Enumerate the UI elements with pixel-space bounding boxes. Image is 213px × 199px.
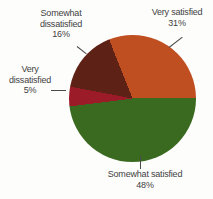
- slice-percent-text: 5%: [2, 85, 58, 96]
- leader-line-somewhat-satisfied: [140, 156, 141, 169]
- leader-line-very-dissatisfied: [51, 90, 66, 91]
- slice-label-very-dissatisfied: Very dissatisfied 5%: [2, 64, 58, 96]
- slice-percent-text: 31%: [138, 18, 213, 29]
- leader-line-somewhat-dissatisfied: [77, 46, 87, 54]
- slice-label-very-satisfied: Very satisfied 31%: [138, 7, 213, 28]
- slice-label-text: Very dissatisfied: [9, 64, 51, 85]
- slice-percent-text: 48%: [93, 180, 197, 191]
- slice-label-text: Very satisfied: [152, 7, 203, 17]
- slice-percent-text: 16%: [22, 29, 100, 40]
- slice-label-text: Somewhat dissatisfied: [40, 8, 82, 29]
- slice-label-somewhat-dissatisfied: Somewhat dissatisfied 16%: [22, 8, 100, 40]
- slice-label-text: Somewhat satisfied: [108, 169, 182, 179]
- slice-label-somewhat-satisfied: Somewhat satisfied 48%: [93, 169, 197, 190]
- leader-line-very-satisfied: [169, 37, 183, 48]
- pie-chart-figure: Somewhat dissatisfied 16% Very satisfied…: [0, 0, 213, 199]
- pie: [69, 35, 196, 162]
